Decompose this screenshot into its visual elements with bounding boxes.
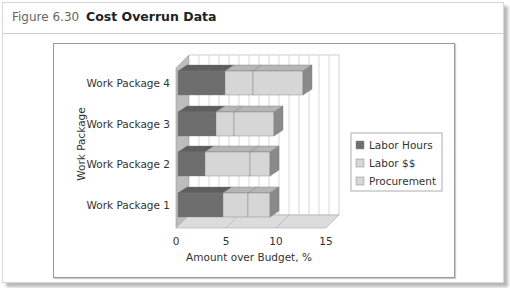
bar-segment <box>178 152 205 176</box>
legend-swatch <box>356 159 364 167</box>
bar-segment <box>234 112 274 136</box>
bar-segment <box>205 152 250 176</box>
x-tick-label: 10 <box>269 235 282 247</box>
bar-segment <box>178 71 225 95</box>
bar-segment <box>216 112 234 136</box>
bar-top-face <box>178 65 234 71</box>
bar-segment <box>178 112 216 136</box>
x-tick-label: 5 <box>223 235 230 247</box>
category-label: Work Package 4 <box>87 77 171 89</box>
x-tick-label: 15 <box>319 235 332 247</box>
legend-swatch <box>356 141 364 149</box>
x-tick-label: 0 <box>173 235 180 247</box>
figure-number: Figure 6.30 <box>12 10 79 24</box>
bar-segment <box>250 152 270 176</box>
bar-segment <box>178 193 223 217</box>
legend-label: Labor $$ <box>369 157 415 169</box>
figure-title-bar: Figure 6.30 Cost Overrun Data <box>3 3 503 34</box>
legend-swatch <box>356 177 364 185</box>
bar-segment <box>223 193 248 217</box>
bar-segment <box>225 71 253 95</box>
bar-chart: Work Package 1Work Package 2Work Package… <box>54 44 454 277</box>
figure-title: Cost Overrun Data <box>86 9 216 24</box>
y-axis-label: Work Package <box>75 107 87 180</box>
bar-segment <box>248 193 270 217</box>
category-label: Work Package 1 <box>87 199 170 211</box>
bar-top-face <box>205 146 259 152</box>
chart-container: Work Package 1Work Package 2Work Package… <box>53 43 455 278</box>
category-label: Work Package 2 <box>87 158 170 170</box>
figure-frame: Figure 6.30 Cost Overrun Data Work Packa… <box>2 2 504 283</box>
bar-top-face <box>178 187 232 193</box>
legend-label: Procurement <box>369 175 436 187</box>
category-label: Work Package 3 <box>87 118 170 130</box>
bar-segment <box>253 71 303 95</box>
bar-top-face <box>253 65 312 71</box>
x-axis-label: Amount over Budget, % <box>186 251 312 263</box>
legend-label: Labor Hours <box>369 139 433 151</box>
